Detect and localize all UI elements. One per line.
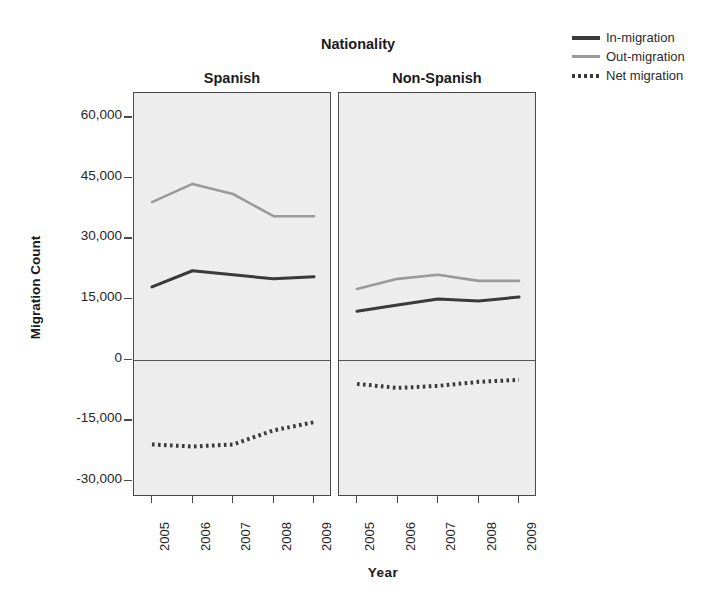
y-axis-tick-mark xyxy=(124,298,132,299)
x-axis-tick-label: 2007 xyxy=(443,522,458,551)
y-axis-tick-mark xyxy=(124,480,132,481)
series-line-out-migration xyxy=(152,184,314,216)
series-group-spanish xyxy=(134,93,331,496)
y-axis-tick-mark xyxy=(124,116,132,117)
legend-item-net-migration[interactable]: Net migration xyxy=(572,66,718,85)
x-axis-title: Year xyxy=(233,565,533,580)
x-axis-tick-mark xyxy=(273,496,274,503)
x-axis-tick-mark xyxy=(397,496,398,503)
panel-title-spanish: Spanish xyxy=(133,70,331,86)
series-group-non-spanish xyxy=(339,93,536,496)
legend-item-out-migration[interactable]: Out-migration xyxy=(572,47,718,66)
x-axis-tick-label: 2009 xyxy=(319,522,334,551)
y-axis-tick-label: 30,000 xyxy=(10,228,122,243)
x-axis-tick-mark xyxy=(518,496,519,503)
plot-panel-spanish xyxy=(133,92,331,496)
chart-title: Nationality xyxy=(268,36,448,52)
x-axis-tick-mark xyxy=(437,496,438,503)
x-axis-tick-mark xyxy=(313,496,314,503)
y-axis-tick-label: -15,000 xyxy=(10,410,122,425)
x-axis-tick-label: 2008 xyxy=(484,522,499,551)
series-line-net-migration xyxy=(152,422,314,446)
y-axis-tick-label: 60,000 xyxy=(10,107,122,122)
plot-panel-non-spanish xyxy=(338,92,536,496)
solid-line-icon xyxy=(572,52,600,62)
series-line-in-migration xyxy=(152,271,314,287)
x-axis-tick-label: 2006 xyxy=(403,522,418,551)
x-axis-tick-label: 2005 xyxy=(157,522,172,551)
migration-line-chart: In-migration Out-migration Net migration… xyxy=(0,0,720,603)
y-axis-tick-label: -30,000 xyxy=(10,471,122,486)
legend-label-out-migration: Out-migration xyxy=(606,50,685,64)
x-axis-tick-label: 2005 xyxy=(362,522,377,551)
y-axis-tick-mark xyxy=(124,359,132,360)
panel-title-non-spanish: Non-Spanish xyxy=(338,70,536,86)
x-axis-tick-mark xyxy=(478,496,479,503)
series-line-in-migration xyxy=(357,297,519,311)
dotted-line-icon xyxy=(572,71,600,81)
chart-legend: In-migration Out-migration Net migration xyxy=(572,28,718,85)
x-axis-tick-label: 2008 xyxy=(279,522,294,551)
y-axis-tick-label: 0 xyxy=(10,350,122,365)
x-axis-tick-mark xyxy=(192,496,193,503)
y-axis-tick-label: 15,000 xyxy=(10,289,122,304)
x-axis-tick-label: 2006 xyxy=(198,522,213,551)
y-axis-tick-mark xyxy=(124,177,132,178)
legend-label-net-migration: Net migration xyxy=(606,69,683,83)
x-axis-tick-label: 2009 xyxy=(524,522,539,551)
series-line-out-migration xyxy=(357,275,519,289)
legend-label-in-migration: In-migration xyxy=(606,31,675,45)
series-line-net-migration xyxy=(357,380,519,388)
y-axis-tick-label: 45,000 xyxy=(10,168,122,183)
x-axis-tick-mark xyxy=(356,496,357,503)
legend-item-in-migration[interactable]: In-migration xyxy=(572,28,718,47)
x-axis-tick-label: 2007 xyxy=(238,522,253,551)
y-axis-tick-mark xyxy=(124,237,132,238)
x-axis-tick-mark xyxy=(151,496,152,503)
y-axis-tick-mark xyxy=(124,419,132,420)
x-axis-tick-mark xyxy=(232,496,233,503)
solid-line-icon xyxy=(572,33,600,43)
